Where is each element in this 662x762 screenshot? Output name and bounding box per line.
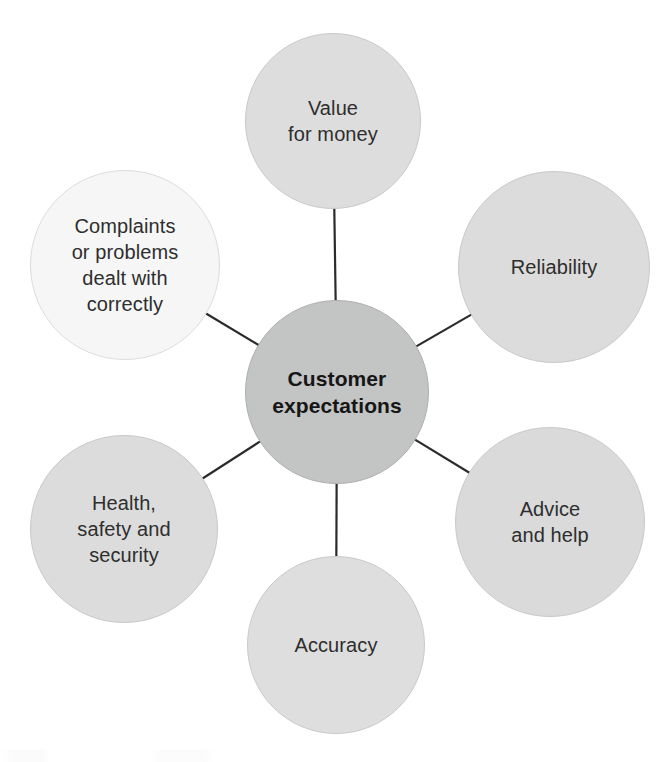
- node-label-health-safety-and-security: Health, safety and security: [69, 490, 178, 568]
- connector-hub-to-complaints: [205, 313, 260, 346]
- connector-hub-to-value-for-money: [334, 207, 335, 302]
- connector-hub-to-advice-and-help: [414, 439, 471, 474]
- satellite-node-accuracy: Accuracy: [247, 556, 425, 734]
- satellite-node-health-safety-and-security: Health, safety and security: [30, 435, 218, 623]
- hub-node-customer-expectations: Customer expectations: [245, 300, 429, 484]
- satellite-node-complaints-or-problems-dealt-with-correctly: Complaints or problems dealt with correc…: [30, 170, 220, 360]
- connector-hub-to-health-safety: [201, 441, 261, 480]
- node-label-value-for-money: Value for money: [280, 95, 386, 147]
- satellite-node-advice-and-help: Advice and help: [455, 427, 645, 617]
- cropped-caption-artifact: [0, 750, 300, 762]
- satellite-node-reliability: Reliability: [458, 171, 650, 363]
- connector-hub-to-reliability: [415, 314, 473, 347]
- node-label-advice-and-help: Advice and help: [503, 496, 597, 548]
- diagram-canvas: Value for moneyReliabilityAdvice and hel…: [0, 0, 662, 762]
- node-label-accuracy: Accuracy: [286, 632, 385, 658]
- satellite-node-value-for-money: Value for money: [245, 33, 421, 209]
- node-label-customer-expectations: Customer expectations: [264, 365, 410, 419]
- node-label-complaints-or-problems-dealt-with-correctly: Complaints or problems dealt with correc…: [64, 213, 187, 317]
- node-label-reliability: Reliability: [503, 254, 606, 280]
